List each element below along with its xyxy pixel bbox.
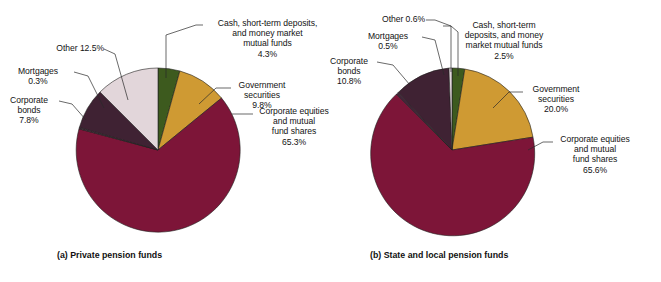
leader-line-bonds	[377, 62, 410, 85]
corporate-equities-callout-label: Corporate equities and mutual fund share…	[549, 134, 641, 175]
panel-private-pension-funds: Cash, short-term deposits, and money mar…	[0, 0, 330, 282]
cash-callout-label: Cash, short-term deposits, and money mar…	[443, 20, 565, 61]
other-callout-label: Other 12.5%	[14, 43, 104, 53]
mortgages-callout-label: Mortgages 0.3%	[5, 66, 71, 86]
panel-b-caption: (b) State and local pension funds	[370, 250, 508, 260]
pension-fund-asset-allocation-figure: Cash, short-term deposits, and money mar…	[0, 0, 661, 282]
corporate-bonds-callout-label: Corporate bonds 7.8%	[1, 95, 57, 126]
corporate-bonds-callout-label: Corporate bonds 10.8%	[321, 56, 377, 87]
panel-a-caption: (a) Private pension funds	[57, 250, 162, 260]
corporate-equities-callout-label: Corporate equities and mutual fund share…	[250, 106, 338, 147]
panel-state-local-pension-funds: Cash, short-term deposits, and money mar…	[331, 0, 661, 282]
mortgages-callout-label: Mortgages 0.5%	[355, 31, 421, 51]
other-callout-label: Other 0.6%	[339, 14, 425, 24]
leader-line-bonds	[59, 101, 86, 120]
cash-callout-label: Cash, short-term deposits, and money mar…	[205, 18, 330, 59]
government-securities-callout-label: Government securities 20.0%	[515, 84, 597, 115]
